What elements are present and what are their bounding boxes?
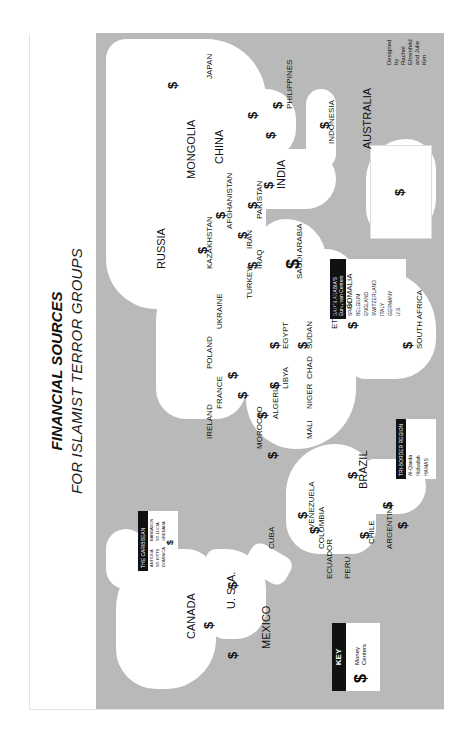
money-center-brazil: $ xyxy=(346,472,359,479)
label-india: INDIA xyxy=(276,160,287,189)
saudi-center-item: ITALY xyxy=(378,259,386,319)
label-egypt: EGYPT xyxy=(282,322,290,349)
credit-text: Designed by Rachel Ehrenfeld and Julie K… xyxy=(386,33,428,65)
triborder-item: HAMAS xyxy=(422,419,430,479)
money-center-pakistan: $ xyxy=(246,202,259,209)
money-center-india: $ xyxy=(262,182,275,189)
money-center-morocco: $ xyxy=(266,452,279,459)
label-australia: AUSTRALIA xyxy=(362,88,373,149)
money-center-algeria: $ xyxy=(256,412,269,419)
label-niger: NIGER xyxy=(306,384,314,409)
label-ethiopia: ETHIOPIA xyxy=(331,292,339,329)
key-label: Money Centers xyxy=(354,644,368,665)
money-center-europe: $ xyxy=(236,392,249,399)
money-center-argentina: $ xyxy=(396,522,409,529)
key-heading: KEY xyxy=(332,623,346,691)
label-turkey: TURKEY xyxy=(246,267,254,299)
caribbean-heading: THE CARIBBEAN xyxy=(138,511,148,571)
label-afghanistan: AFGHANISTAN xyxy=(226,173,234,229)
label-brazil: BRAZIL xyxy=(358,450,369,489)
caribbean-item: ST. KITTS xyxy=(156,549,160,567)
label-mongolia: MONGOLIA xyxy=(186,120,197,179)
world-map: $ KEY $ Money Centers THE CARIBBEAN ANTI… xyxy=(96,33,444,709)
caribbean-inset: THE CARIBBEAN ANTIGUA ST. KITTS DOMINICA… xyxy=(138,511,178,571)
credit-line1: Designed by xyxy=(386,33,400,65)
label-usa: U. S. A. xyxy=(226,572,237,609)
saudi-european-centers-box: SAUDI ARABIA'S European Centers SPAIN BE… xyxy=(330,259,406,319)
triborder-item: Hizballah xyxy=(414,419,422,479)
money-center-south-africa: $ xyxy=(401,342,414,349)
label-ecuador: ECUADOR xyxy=(326,539,334,579)
map-frame: FINANCIAL SOURCES FOR ISLAMIST TERROR GR… xyxy=(29,34,443,710)
triborder-heading: TRI-BORDER REGION xyxy=(396,419,406,479)
money-center-paraguay: $ xyxy=(381,502,394,509)
money-center-icon: $ xyxy=(393,189,406,196)
label-china: CHINA xyxy=(214,130,225,164)
saudi-center-item: ENGLAND xyxy=(362,259,370,319)
label-chad: CHAD xyxy=(306,356,314,379)
label-philippines: PHILIPPINES xyxy=(286,60,294,109)
label-south-africa: SOUTH AFRICA xyxy=(416,290,424,349)
label-ireland: IRELAND xyxy=(206,404,214,439)
money-center-sudan: $ xyxy=(296,342,309,349)
credit-line2: Rachel Ehrenfeld xyxy=(400,33,414,65)
money-center-europe: $ xyxy=(226,372,239,379)
money-center-kenya: $ xyxy=(346,322,359,329)
money-center-thailand: $ xyxy=(264,132,277,139)
label-saudi-arabia: SAUDI ARABIA xyxy=(296,223,304,279)
key-label-line2: Centers xyxy=(361,644,368,665)
saudi-center-item: GERMANY xyxy=(386,259,394,319)
saudi-center-item: SWITZERLAND xyxy=(370,259,378,319)
map-subtitle: FOR ISLAMIST TERROR GROUPS xyxy=(68,33,85,709)
money-center-canada: $ xyxy=(202,622,215,629)
money-center-kazakhstan: $ xyxy=(196,247,209,254)
caribbean-item: ST. LUCIA xyxy=(156,522,160,541)
label-france: FRANCE xyxy=(216,376,224,409)
money-center-philippines: $ xyxy=(271,102,284,109)
label-canada: CANADA xyxy=(186,593,197,639)
australia-inset: $ xyxy=(370,145,432,239)
money-center-somalia: $ xyxy=(334,302,347,309)
money-center-north-korea: $ xyxy=(166,82,179,89)
triborder-item: Al-Qaeda xyxy=(406,419,414,479)
money-center-indonesia: $ xyxy=(318,122,331,129)
money-center-egypt: $ xyxy=(268,342,281,349)
title-bar: FINANCIAL SOURCES FOR ISLAMIST TERROR GR… xyxy=(30,33,96,709)
money-center-usa: $ xyxy=(226,582,239,589)
money-center-venezuela: $ xyxy=(296,512,309,519)
saudi-center-item: BELGIUM xyxy=(354,259,362,319)
caribbean-item: BARBADOS xyxy=(150,519,154,541)
money-center-iraq: $ xyxy=(246,262,259,269)
money-center-libya: $ xyxy=(268,382,281,389)
money-center-icon: $ xyxy=(166,540,175,545)
label-mali: MALI xyxy=(306,420,314,439)
label-peru: PERU xyxy=(344,557,352,579)
money-center-afghanistan: $ xyxy=(214,212,227,219)
money-center-hong-kong: $ xyxy=(246,112,259,119)
label-argentina: ARGENTINA xyxy=(386,502,394,549)
credit-line3: and Julie Kim xyxy=(414,33,428,65)
label-russia: RUSSIA xyxy=(156,228,167,269)
caribbean-item: GRENADA xyxy=(162,521,166,541)
money-center-chile: $ xyxy=(358,532,371,539)
saudi-center-item: U.S. xyxy=(394,259,402,319)
label-poland: POLAND xyxy=(206,336,214,369)
land-arabia xyxy=(256,219,326,289)
label-ukraine: UKRAINE xyxy=(216,293,224,329)
label-kazakhstan: KAZAKHSTAN xyxy=(206,216,214,269)
dollar-icon: $ xyxy=(352,674,370,683)
label-japan: JAPAN xyxy=(206,54,214,79)
legend-key: KEY $ Money Centers xyxy=(332,623,380,691)
triborder-box: TRI-BORDER REGION Al-Qaeda Hizballah HAM… xyxy=(396,419,436,479)
caribbean-item: DOMINICA xyxy=(162,547,166,567)
money-center-usa: $ xyxy=(226,652,239,659)
key-label-line1: Money xyxy=(354,644,361,665)
label-cuba: CUBA xyxy=(268,527,276,549)
label-venezuela: VENEZUELA xyxy=(308,481,316,529)
label-mexico: MEXICO xyxy=(261,606,272,649)
money-center-colombia: $ xyxy=(308,527,321,534)
label-libya: LIBYA xyxy=(282,367,290,389)
label-algeria: ALGERIA xyxy=(272,384,280,419)
map-title: FINANCIAL SOURCES xyxy=(48,33,65,709)
money-center-saudi-arabia: $ xyxy=(284,259,302,269)
